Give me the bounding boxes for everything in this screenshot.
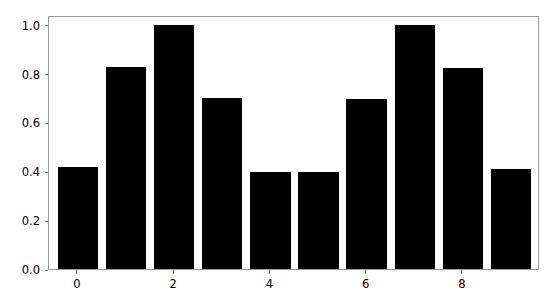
x-tick-mark	[173, 270, 174, 274]
y-tick-label: 0.2	[22, 213, 40, 229]
x-tick-label: 0	[63, 276, 91, 292]
bar	[106, 67, 146, 269]
y-tick-label: 1.0	[22, 18, 40, 34]
bar	[298, 172, 338, 269]
bar	[491, 169, 531, 269]
y-tick-label: 0.8	[22, 67, 40, 83]
bar	[154, 25, 194, 269]
bars-layer	[49, 17, 538, 269]
bar	[202, 98, 242, 269]
bar	[443, 68, 483, 269]
x-tick-label: 2	[159, 276, 187, 292]
bar	[250, 172, 290, 269]
x-tick-mark	[76, 270, 77, 274]
bar	[395, 25, 435, 269]
y-tick-label: 0.6	[22, 115, 40, 131]
x-tick-label: 4	[255, 276, 283, 292]
x-tick-mark	[269, 270, 270, 274]
y-tick-label: 0.0	[22, 262, 40, 278]
bar	[58, 167, 98, 269]
x-tick-label: 8	[448, 276, 476, 292]
x-tick-mark	[365, 270, 366, 274]
bar	[346, 99, 386, 269]
plot-area	[48, 16, 539, 270]
bar-chart-figure: 0.00.20.40.60.81.0 02468	[0, 0, 556, 300]
x-tick-mark	[461, 270, 462, 274]
x-tick-label: 6	[352, 276, 380, 292]
y-tick-label: 0.4	[22, 164, 40, 180]
